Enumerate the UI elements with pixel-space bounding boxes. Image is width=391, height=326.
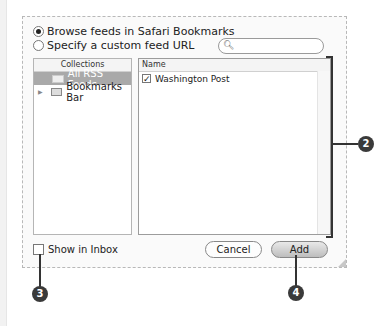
feed-row[interactable]: ✓ Washington Post [139,72,330,85]
disclosure-triangle-icon[interactable]: ▶ [38,88,45,95]
feed-checkbox[interactable]: ✓ [142,74,151,83]
resize-grip[interactable] [338,259,346,267]
callout-4: 4 [288,285,304,301]
collection-bookmarks-bar[interactable]: ▶ Bookmarks Bar [34,85,131,98]
add-rss-feeds-dialog: Browse feeds in Safari Bookmarks Specify… [22,16,347,268]
collection-label: Bookmarks Bar [66,81,131,103]
show-in-inbox-row[interactable]: Show in Inbox [33,244,118,255]
custom-url-label: Specify a custom feed URL [47,39,194,52]
callout-line [333,143,358,145]
collections-list[interactable]: Collections All RSS Feeds ▶ Bookmarks Ba… [33,58,132,235]
show-in-inbox-label: Show in Inbox [48,244,118,255]
name-column-header[interactable]: Name [139,59,330,72]
bookmarks-folder-icon [51,88,62,96]
callout-2: 2 [358,136,374,152]
rss-feed-icon [52,75,64,83]
add-button[interactable]: Add [271,241,328,258]
callout-3: 3 [32,286,48,302]
browse-safari-radio[interactable] [33,26,44,37]
callout-bracket [326,56,333,238]
search-icon: 🔍︎ [223,40,234,50]
callout-line [295,255,297,287]
browse-safari-radio-row[interactable]: Browse feeds in Safari Bookmarks [33,25,235,38]
cancel-button[interactable]: Cancel [205,241,262,258]
custom-url-radio[interactable] [33,40,44,51]
page-margin [0,0,7,326]
feed-label: Washington Post [155,74,230,84]
search-field[interactable]: 🔍︎ [218,38,324,54]
feeds-list[interactable]: Name ✓ Washington Post [138,58,331,235]
custom-url-radio-row[interactable]: Specify a custom feed URL [33,39,194,52]
callout-line [39,254,41,288]
browse-safari-label: Browse feeds in Safari Bookmarks [47,25,235,38]
